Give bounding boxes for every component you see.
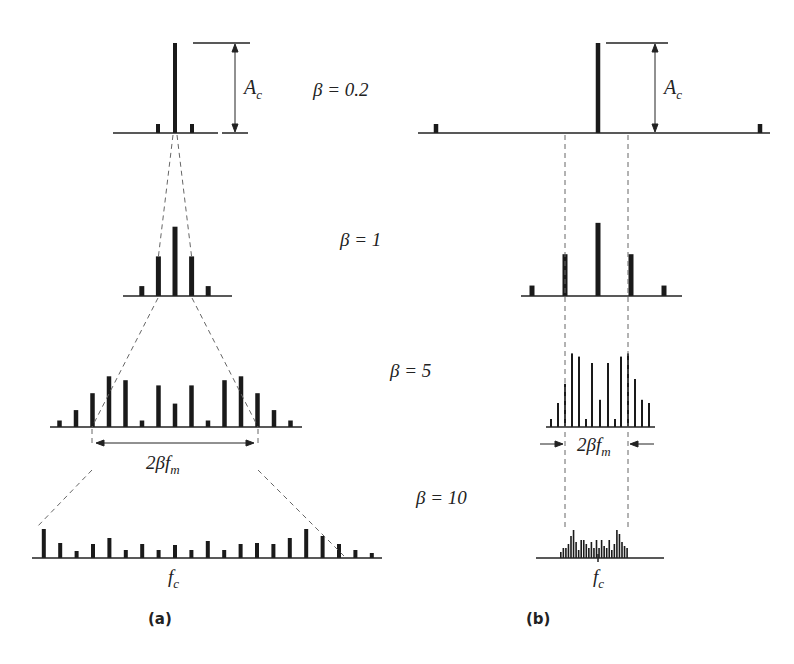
spectral-line — [189, 256, 194, 296]
arrow-head — [232, 124, 238, 132]
beta-label-10: β = 10 — [416, 487, 467, 509]
spectral-line — [621, 542, 623, 558]
dashed-guides — [36, 135, 628, 556]
spectral-line — [607, 363, 609, 427]
beta-label-5: β = 5 — [390, 360, 431, 382]
spectral-line — [580, 540, 582, 558]
arrow-head — [652, 44, 658, 52]
spectral-line — [75, 551, 79, 558]
spectral-line — [591, 363, 593, 427]
spectral-line — [596, 43, 601, 133]
arrow-head — [555, 441, 563, 447]
spectral-line — [222, 380, 227, 427]
carrier-label-a: fc — [168, 566, 179, 592]
spectral-line — [662, 286, 667, 296]
spectral-line — [626, 548, 628, 558]
spectral-line — [620, 357, 622, 427]
spectral-line — [156, 124, 160, 133]
spectral-line — [288, 421, 293, 428]
spectral-line — [641, 400, 643, 427]
spectral-line — [239, 544, 243, 558]
spectral-line — [239, 376, 244, 427]
spectral-line — [578, 550, 580, 558]
spectral-line — [140, 544, 144, 558]
beta-label-1: β = 1 — [340, 229, 381, 251]
spectral-line — [596, 540, 598, 558]
spectral-line — [588, 548, 590, 558]
arrow-head — [652, 124, 658, 132]
spectral-line — [758, 124, 763, 133]
spectral-line — [608, 540, 610, 558]
dashed-guide-line — [177, 135, 192, 260]
spectral-line — [648, 403, 650, 427]
spectral-line — [611, 550, 613, 558]
spectral-line — [74, 410, 79, 427]
spectral-line — [624, 546, 626, 558]
spectral-line — [139, 286, 144, 296]
spectral-line — [353, 550, 357, 558]
spectral-line — [599, 400, 601, 427]
spectral-line — [91, 544, 95, 558]
arrow-head — [246, 440, 254, 446]
spectral-lines — [42, 43, 762, 558]
spectral-line — [565, 548, 567, 558]
spectral-line — [255, 543, 259, 558]
spectral-line — [173, 43, 177, 133]
amplitude-label-b: Ac — [664, 76, 682, 103]
spectral-line — [156, 256, 161, 296]
spectral-line — [123, 380, 128, 427]
spectral-line — [530, 286, 535, 296]
spectral-line — [583, 540, 585, 558]
spectral-line — [550, 419, 552, 427]
spectral-line — [606, 548, 608, 558]
arrow-head — [232, 44, 238, 52]
spectral-line — [575, 542, 577, 558]
spectral-line — [614, 419, 616, 427]
spectral-line — [616, 530, 618, 558]
spectral-line — [634, 379, 636, 427]
spectral-line — [272, 410, 277, 427]
spectral-line — [57, 421, 62, 428]
spectral-line — [156, 385, 161, 427]
panel-label-a: (a) — [148, 610, 172, 628]
spectral-line — [585, 419, 587, 427]
spectral-line — [578, 357, 580, 427]
dashed-guide-line — [258, 470, 344, 556]
spectral-line — [337, 544, 341, 558]
spectral-line — [571, 353, 573, 427]
spectral-line — [596, 223, 601, 296]
spectral-line — [189, 550, 193, 558]
spectral-line — [593, 548, 595, 558]
spectral-line — [568, 544, 570, 558]
spectral-line — [570, 536, 572, 558]
spectral-line — [124, 550, 128, 558]
spectral-line — [107, 376, 112, 427]
spectral-line — [173, 545, 177, 558]
spectral-line — [173, 404, 178, 427]
spectral-line — [288, 538, 292, 558]
spectral-line — [157, 550, 161, 558]
spectral-line — [189, 385, 194, 427]
spectral-line — [563, 548, 565, 558]
fm-spectrum-figure: β = 0.2 β = 1 β = 5 β = 10 Ac Ac 2βfm 2β… — [0, 0, 794, 664]
spectral-line — [206, 421, 211, 428]
frequency-axes — [32, 43, 770, 562]
spectral-line — [603, 546, 605, 558]
carrier-label-b: fc — [593, 566, 604, 592]
spectral-line — [190, 124, 194, 133]
spectral-line — [591, 542, 593, 558]
spectral-line — [601, 540, 603, 558]
arrow-head — [96, 440, 104, 446]
spectral-line — [560, 552, 562, 558]
spectral-line — [42, 529, 46, 558]
bandwidth-label-b: 2βfm — [577, 434, 611, 460]
spectral-line — [140, 421, 145, 428]
arrow-head — [630, 441, 638, 447]
panel-label-b: (b) — [526, 610, 550, 628]
spectral-line — [614, 544, 616, 558]
spectral-line — [629, 254, 634, 296]
bandwidth-label-a: 2βfm — [146, 452, 180, 478]
spectral-line — [107, 538, 111, 558]
spectral-line — [557, 403, 559, 427]
dashed-guide-line — [158, 135, 173, 260]
